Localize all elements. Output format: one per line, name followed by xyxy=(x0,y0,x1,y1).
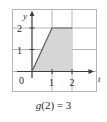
caption-argument: (2) xyxy=(41,99,54,111)
y-tick-label-2: 2 xyxy=(17,23,22,34)
y-axis-label: y xyxy=(22,11,27,21)
t-axis-label: t xyxy=(98,74,101,84)
y-axis-arrow xyxy=(30,11,35,17)
x-tick-label-1: 1 xyxy=(49,77,54,88)
caption-value: 3 xyxy=(66,99,72,111)
y-tick-label-1: 1 xyxy=(17,45,22,56)
figure-caption: g(2) = 3 xyxy=(0,99,107,111)
t-axis-arrow xyxy=(89,69,95,74)
plot-area: y t 2 1 1 2 0 xyxy=(0,0,107,98)
x-tick-label-2: 2 xyxy=(70,77,75,88)
coordinate-plot: y t 2 1 1 2 0 xyxy=(0,0,107,98)
origin-label: 0 xyxy=(19,75,24,86)
figure-container: y t 2 1 1 2 0 g(2) = 3 xyxy=(0,0,107,122)
